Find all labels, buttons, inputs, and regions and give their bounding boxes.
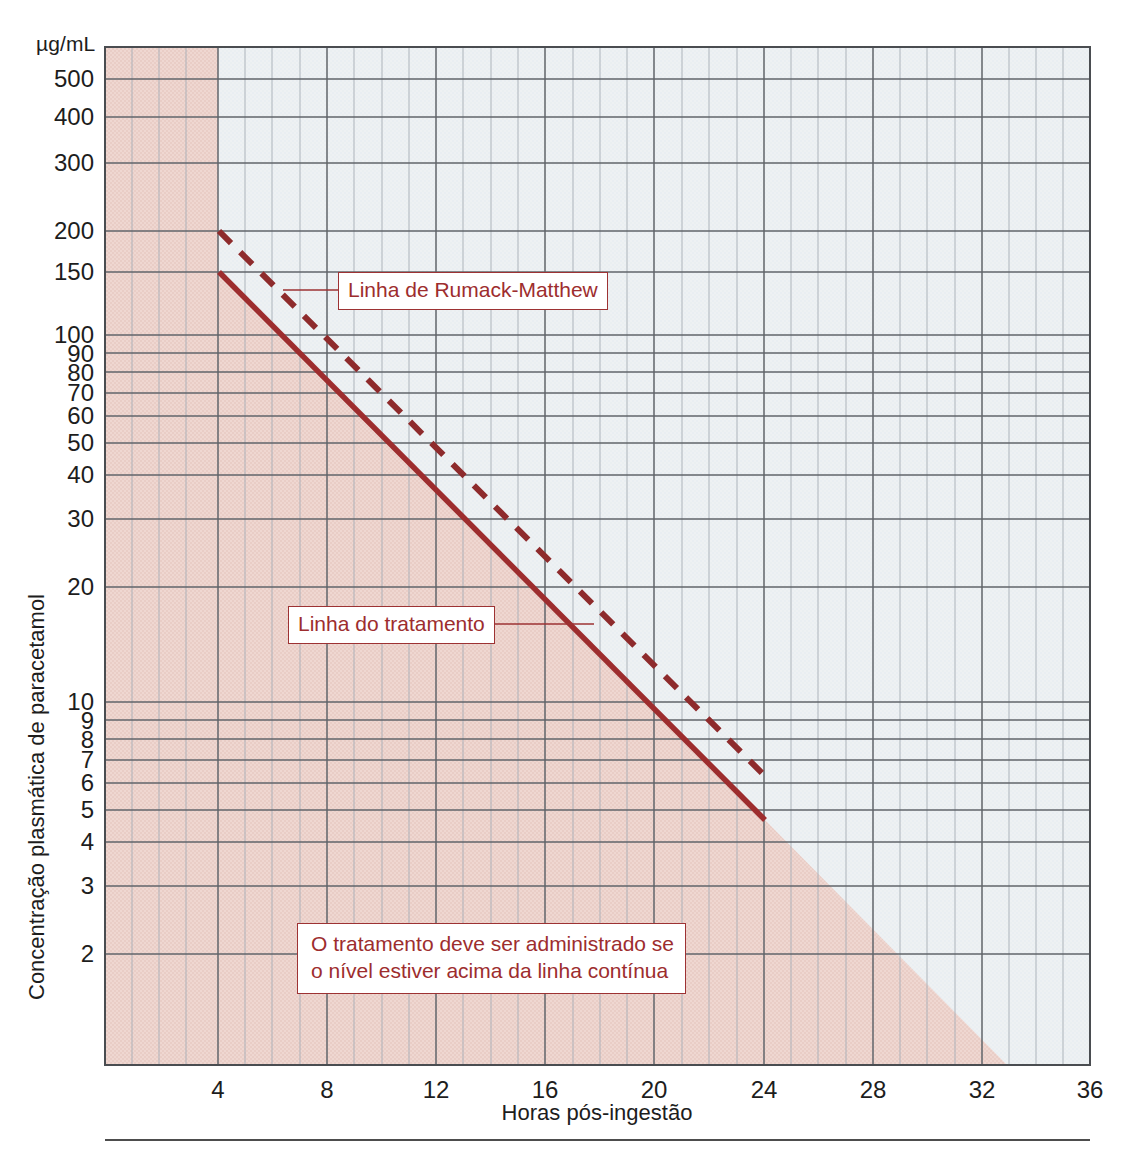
nomogram-figure: µg/mL 500 400 300 200 150 100 90 80 70 6… bbox=[0, 0, 1124, 1152]
y-tick-40: 40 bbox=[20, 463, 94, 487]
callout-treatment-note: O tratamento deve ser administrado se o … bbox=[297, 923, 686, 994]
x-tick-12: 12 bbox=[406, 1078, 466, 1102]
y-axis-title: Concentração plasmática de paracetamol bbox=[24, 594, 50, 1000]
x-tick-28: 28 bbox=[843, 1078, 903, 1102]
callout-treatment-line: Linha do tratamento bbox=[288, 606, 495, 644]
x-tick-16: 16 bbox=[515, 1078, 575, 1102]
y-tick-50: 50 bbox=[20, 431, 94, 455]
y-axis-unit-label: µg/mL bbox=[36, 32, 95, 56]
note-line-1: O tratamento deve ser administrado se bbox=[311, 931, 674, 958]
y-tick-60: 60 bbox=[20, 404, 94, 428]
y-tick-150: 150 bbox=[20, 260, 94, 284]
y-tick-400: 400 bbox=[20, 105, 94, 129]
x-tick-24: 24 bbox=[734, 1078, 794, 1102]
y-tick-200: 200 bbox=[20, 219, 94, 243]
x-axis-title: Horas pós-ingestão bbox=[397, 1100, 797, 1126]
x-tick-36: 36 bbox=[1060, 1078, 1120, 1102]
note-line-2: o nível estiver acima da linha contínua bbox=[311, 958, 674, 985]
y-tick-300: 300 bbox=[20, 151, 94, 175]
callout-rumack-matthew: Linha de Rumack-Matthew bbox=[338, 272, 608, 310]
x-tick-4: 4 bbox=[188, 1078, 248, 1102]
y-tick-500: 500 bbox=[20, 67, 94, 91]
y-tick-30: 30 bbox=[20, 507, 94, 531]
x-tick-32: 32 bbox=[952, 1078, 1012, 1102]
x-tick-8: 8 bbox=[297, 1078, 357, 1102]
x-tick-20: 20 bbox=[624, 1078, 684, 1102]
